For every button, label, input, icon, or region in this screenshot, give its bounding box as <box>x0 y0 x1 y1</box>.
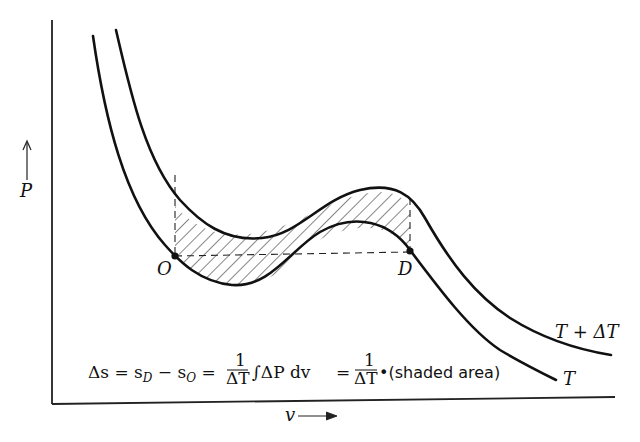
x-axis-label-group: v <box>285 404 337 425</box>
curve-label-T: T <box>563 368 577 389</box>
point-O-label: O <box>157 258 172 279</box>
svg-text:Δs = sD − sO =: Δs = sD − sO = <box>88 362 216 385</box>
eq-frac1-den: ΔT <box>226 368 250 388</box>
eq-integral: ∫ΔP dv <box>252 362 311 382</box>
eq-frac2-den: ΔT <box>354 368 378 388</box>
x-axis <box>52 397 615 404</box>
entropy-equation: Δs = sD − sO = 1 ΔT ∫ΔP dv = 1 ΔT •(shad… <box>88 350 500 388</box>
shaded-area <box>100 40 470 330</box>
eq-lhs: Δs = s <box>88 362 143 382</box>
eq-frac2-num: 1 <box>364 350 375 370</box>
eq-eq1: = <box>196 362 216 382</box>
y-axis-label: P <box>19 180 33 201</box>
point-D-label: D <box>397 258 413 279</box>
point-D <box>406 247 413 254</box>
point-O <box>171 252 178 259</box>
eq-sub-O: O <box>186 371 196 385</box>
eq-frac1-num: 1 <box>235 350 246 370</box>
eq-sub-D: D <box>142 371 153 385</box>
x-axis-label: v <box>285 404 295 425</box>
curve-label-T-plus-dT: T + ΔT <box>555 321 621 342</box>
pv-diagram: P v O D T + ΔT T Δs = sD − sO = 1 ΔT ∫ΔP… <box>0 0 640 442</box>
eq-eq2: = <box>336 362 350 382</box>
eq-minus: − s <box>152 362 186 382</box>
eq-tail: •(shaded area) <box>379 363 500 382</box>
y-axis-label-group: P <box>19 141 33 201</box>
x-axis-arrowhead-icon <box>326 412 337 420</box>
isotherm-T-plus-dT <box>116 30 611 355</box>
